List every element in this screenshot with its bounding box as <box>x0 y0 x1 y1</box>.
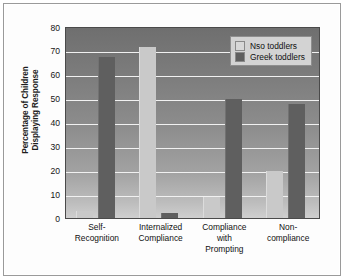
x-label-non-compliance: Non- compliance <box>256 222 320 255</box>
y-tick-60: 60 <box>20 70 60 80</box>
bar-nso-compliance-with-prompting <box>203 197 220 218</box>
bar-greek-internalized-compliance <box>161 213 178 218</box>
legend-label-greek: Greek toddlers <box>250 52 305 62</box>
plot-area: Nso toddlers Greek toddlers <box>65 27 320 219</box>
y-tick-20: 20 <box>20 166 60 176</box>
y-tick-30: 30 <box>20 142 60 152</box>
x-label-line: Compliance <box>130 233 192 244</box>
bar-greek-non-compliance <box>288 104 305 218</box>
x-label-line: with <box>194 233 256 244</box>
x-label-line: Self- <box>66 222 128 233</box>
bar-greek-self-recognition <box>98 57 115 219</box>
legend-swatch-greek-icon <box>235 52 245 62</box>
bar-greek-compliance-with-prompting <box>225 99 242 218</box>
x-label-self-recognition: Self- Recognition <box>65 222 129 255</box>
x-axis-labels: Self- Recognition Internalized Complianc… <box>65 222 320 255</box>
bar-group-internalized-compliance <box>129 28 192 218</box>
x-label-line: Prompting <box>194 244 256 255</box>
bar-nso-self-recognition <box>76 211 93 218</box>
x-label-line: Compliance <box>194 222 256 233</box>
x-label-line: compliance <box>257 233 319 244</box>
legend-item-nso: Nso toddlers <box>235 40 305 51</box>
legend-label-nso: Nso toddlers <box>250 41 297 51</box>
legend-item-greek: Greek toddlers <box>235 51 305 62</box>
bar-nso-non-compliance <box>266 171 283 219</box>
y-tick-50: 50 <box>20 94 60 104</box>
x-label-compliance-with-prompting: Compliance with Prompting <box>193 222 257 255</box>
x-label-line: Non- <box>257 222 319 233</box>
bar-chart: Percentage of Children Displaying Respon… <box>4 4 342 277</box>
legend-swatch-nso-icon <box>235 41 245 51</box>
y-tick-10: 10 <box>20 190 60 200</box>
x-label-line: Recognition <box>66 233 128 244</box>
y-tick-70: 70 <box>20 46 60 56</box>
figure-frame: Percentage of Children Displaying Respon… <box>3 3 341 276</box>
y-tick-40: 40 <box>20 118 60 128</box>
chart-legend: Nso toddlers Greek toddlers <box>230 36 312 66</box>
y-tick-80: 80 <box>20 23 60 33</box>
x-label-line: Internalized <box>130 222 192 233</box>
x-label-internalized-compliance: Internalized Compliance <box>129 222 193 255</box>
y-tick-0: 0 <box>20 214 60 224</box>
bar-group-self-recognition <box>66 28 129 218</box>
bar-nso-internalized-compliance <box>139 47 156 218</box>
